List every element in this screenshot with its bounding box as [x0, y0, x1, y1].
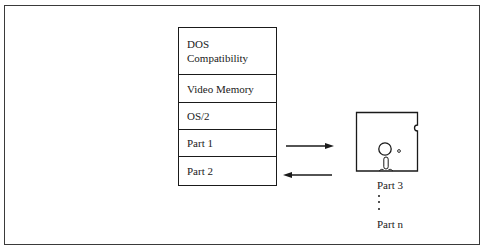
diagram-art: [0, 0, 486, 251]
floppy-disk-icon: [357, 113, 418, 172]
disk-label-first: Part 3: [377, 179, 403, 191]
arrow-right-icon: [286, 143, 334, 149]
disk-label-last: Part n: [377, 218, 403, 230]
arrow-left-icon: [283, 172, 332, 178]
